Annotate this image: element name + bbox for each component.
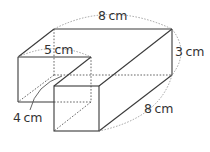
- label-top-length: 8 cm: [98, 8, 128, 23]
- label-inner-width: 5 cm: [44, 42, 74, 57]
- l-shaped-solid-diagram: 8 cm 5 cm 3 cm 8 cm 4 cm: [0, 0, 210, 152]
- label-left-depth: 4 cm: [13, 110, 43, 125]
- label-front-length: 8 cm: [144, 101, 174, 116]
- label-height: 3 cm: [175, 44, 205, 59]
